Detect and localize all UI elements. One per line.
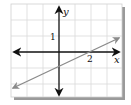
- graph-svg: y x 1 2: [0, 0, 131, 105]
- x-axis-label: x: [114, 54, 120, 65]
- y-axis-label: y: [62, 6, 69, 17]
- grid-background: [11, 4, 122, 97]
- y-tick-label-1: 1: [50, 32, 56, 42]
- x-tick-label-2: 2: [87, 54, 93, 64]
- coordinate-plane-figure: y x 1 2: [0, 0, 131, 105]
